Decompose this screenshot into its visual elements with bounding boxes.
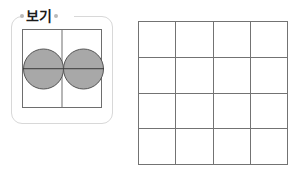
label-dot-right-icon (54, 14, 58, 18)
example-inner-square (22, 29, 102, 108)
grid-cell[interactable] (176, 22, 213, 58)
example-label-group: 보기 (20, 7, 58, 25)
grid-cell[interactable] (176, 94, 213, 130)
grid-cell[interactable] (176, 129, 213, 165)
grid-cell[interactable] (139, 22, 176, 58)
label-dot-left-icon (20, 14, 24, 18)
grid-cell[interactable] (139, 129, 176, 165)
answer-grid-panel (138, 21, 288, 165)
grid-cell[interactable] (214, 58, 251, 94)
grid-cell[interactable] (251, 129, 288, 165)
grid-cell[interactable] (251, 94, 288, 130)
answer-grid (138, 21, 288, 165)
example-panel: 보기 (0, 0, 130, 174)
grid-cell[interactable] (214, 22, 251, 58)
grid-cell[interactable] (176, 58, 213, 94)
grid-cell[interactable] (251, 58, 288, 94)
grid-cell[interactable] (214, 94, 251, 130)
grid-cell[interactable] (214, 129, 251, 165)
grid-cell[interactable] (139, 58, 176, 94)
grid-cell[interactable] (251, 22, 288, 58)
worksheet-page: 보기 (0, 0, 296, 174)
circles-horizontal-split-line (23, 68, 104, 70)
example-label: 보기 (26, 9, 52, 23)
grid-cell[interactable] (139, 94, 176, 130)
